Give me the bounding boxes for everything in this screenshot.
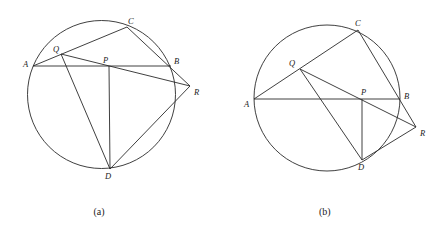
figure-caption: (a): [94, 206, 105, 218]
point-label-d: D: [104, 171, 112, 181]
point-label-q: Q: [289, 58, 295, 68]
segment-qr: [61, 54, 190, 86]
figure-caption: (b): [319, 206, 331, 218]
point-label-c: C: [355, 18, 361, 28]
point-label-c: C: [128, 16, 134, 26]
figure-b: ABCDPQR(b): [243, 18, 426, 218]
point-label-d: D: [357, 162, 365, 172]
segment-cr: [127, 27, 190, 86]
segment-qd: [61, 54, 110, 169]
point-label-q: Q: [53, 44, 59, 54]
segment-ac: [33, 27, 127, 66]
point-label-b: B: [174, 56, 179, 66]
segment-dr: [110, 86, 190, 169]
point-label-p: P: [102, 55, 108, 65]
point-label-p: P: [360, 87, 366, 97]
circle: [28, 21, 176, 169]
segment-ac: [254, 30, 358, 99]
point-label-r: R: [419, 128, 426, 138]
point-label-a: A: [22, 59, 29, 69]
segment-pd: [109, 66, 110, 169]
segment-dr: [362, 127, 416, 160]
geometry-diagram: ABCDPQR(a) ABCDPQR(b): [0, 0, 444, 235]
segment-qd: [300, 69, 362, 160]
circle: [254, 25, 400, 171]
figure-a: ABCDPQR(a): [22, 16, 200, 218]
point-label-a: A: [243, 99, 250, 109]
point-label-b: B: [404, 91, 409, 101]
point-label-r: R: [193, 87, 200, 97]
